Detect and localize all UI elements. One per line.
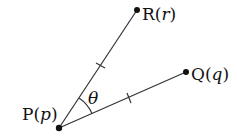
- tick-mark-pr: [96, 63, 105, 68]
- point-q: [183, 69, 189, 75]
- label-q: Q(q): [191, 64, 229, 84]
- geometry-diagram: R(r) Q(q) P(p) θ: [0, 0, 237, 139]
- point-r: [134, 7, 140, 13]
- label-p: P(p): [22, 104, 58, 124]
- point-p: [56, 125, 62, 131]
- label-r: R(r): [142, 4, 176, 24]
- angle-label-theta: θ: [88, 88, 98, 108]
